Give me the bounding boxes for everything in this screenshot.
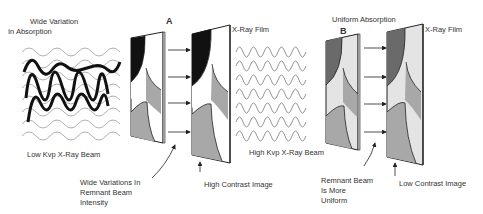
wide-variation-title-line1: Wide Variation [30,17,78,27]
film-b-label: X-Ray Film [425,25,462,35]
film-a-label: X-Ray Film [232,25,269,35]
film-a-high-contrast [192,25,230,163]
panel-a-object [131,32,165,143]
panel-a-arrows [168,50,190,132]
remnant-b-line3: Uniform [321,196,347,206]
low-kvp-beam-label: Low Kvp X-Ray Beam [27,150,100,160]
panel-b-object [326,34,360,150]
low-kvp-beam-waves [22,48,120,140]
low-contrast-image-label: Low Contrast Image [399,179,466,189]
high-kvp-beam-label: High Kvp X-Ray Beam [249,148,324,158]
panel-a-letter: A [166,17,173,27]
remnant-a-line1: Wide Variations In [80,178,140,188]
film-b-low-contrast [387,24,423,165]
remnant-a-line2: Remnant Beam [80,188,132,198]
panel-b-letter: B [340,27,347,37]
high-kvp-beam-waves [236,47,306,141]
high-contrast-image-label: High Contrast Image [204,180,273,190]
remnant-b-line1: Remnant Beam [321,176,373,186]
remnant-b-line2: Is More [321,186,346,196]
uniform-absorption-title: Uniform Absorption [332,15,396,25]
panel-b-arrows [364,48,386,132]
remnant-a-line3: Intensity [80,198,108,208]
wide-variation-title-line2: In Absorption [8,27,52,37]
